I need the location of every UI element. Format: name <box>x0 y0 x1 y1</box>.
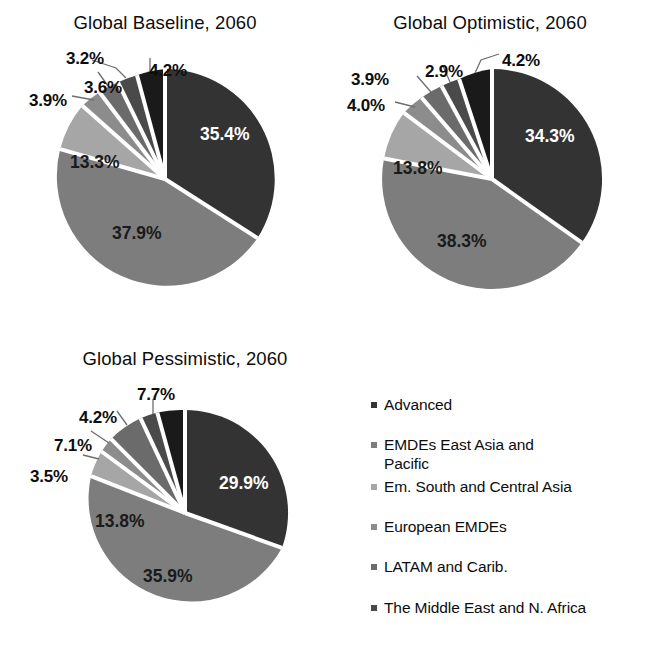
legend-label: European EMDEs <box>384 518 507 536</box>
pie-inside-label-south-central: 13.8% <box>393 158 443 178</box>
chart-title-baseline: Global Baseline, 2060 <box>0 12 330 34</box>
pie-inside-label-emdes: 37.9% <box>112 223 162 243</box>
pie-inside-label-south-central: 13.3% <box>70 152 120 172</box>
pie-baseline-svg: 35.4% 37.9% 13.3% <box>50 64 280 294</box>
pie-inside-label-emdes: 35.9% <box>143 566 193 586</box>
pie-outside-label-latam: 7.1% <box>54 436 92 456</box>
pie-outside-label-latam: 3.6% <box>84 78 122 98</box>
pie-pessimistic: 29.9% 35.9% 13.8% <box>77 405 293 621</box>
pie-outside-label-other: 7.7% <box>137 385 175 405</box>
pie-inside-label-emdes: 38.3% <box>437 231 487 251</box>
legend-swatch-icon <box>371 524 377 530</box>
legend-swatch-icon <box>371 402 377 408</box>
chart-panel-pessimistic: Global Pessimistic, 2060 <box>20 340 350 655</box>
legend-label: Advanced <box>384 396 452 414</box>
chart-panel-baseline: Global Baseline, 2060 <box>0 0 330 330</box>
legend-swatch-icon <box>371 564 377 570</box>
pie-outside-label-mena: 4.2% <box>79 408 117 428</box>
chart-panel-optimistic: Global Optimistic, 2060 <box>325 0 655 330</box>
pie-pessimistic-svg: 29.9% 35.9% 13.8% <box>77 405 293 621</box>
legend-item-em-south-central-asia[interactable]: Em. South and Central Asia <box>371 478 651 496</box>
legend-swatch-icon <box>371 605 377 611</box>
legend-label: Em. South and Central Asia <box>384 478 572 496</box>
legend-swatch-icon <box>371 484 377 490</box>
legend-label: LATAM and Carib. <box>384 558 508 576</box>
pie-outside-label-other: 4.2% <box>149 61 187 81</box>
pie-outside-label-other: 4.2% <box>502 51 540 71</box>
legend-item-advanced[interactable]: Advanced <box>371 396 651 414</box>
legend-item-latam-carib[interactable]: LATAM and Carib. <box>371 558 651 576</box>
legend-item-european-emdes[interactable]: European EMDEs <box>371 518 651 536</box>
legend-label: EMDEs East Asia and Pacific <box>384 436 534 473</box>
legend-label: The Middle East and N. Africa <box>384 599 586 617</box>
pie-outside-label-european-emdes: 3.9% <box>29 91 67 111</box>
pie-inside-label-south-central: 13.8% <box>95 511 145 531</box>
legend-item-emdes-east-asia-pacific[interactable]: EMDEs East Asia and Pacific <box>371 436 651 473</box>
pie-inside-label-advanced: 34.3% <box>525 126 575 146</box>
chart-title-optimistic: Global Optimistic, 2060 <box>325 12 655 34</box>
pie-outside-label-latam: 3.9% <box>351 70 389 90</box>
pie-optimistic-svg: 34.3% 38.3% 13.8% <box>377 64 607 294</box>
pie-outside-label-european-emdes: 3.5% <box>30 467 68 487</box>
pie-optimistic: 34.3% 38.3% 13.8% <box>377 64 607 294</box>
legend-swatch-icon <box>371 442 377 448</box>
legend-item-middle-east-n-africa[interactable]: The Middle East and N. Africa <box>371 599 651 617</box>
pie-outside-label-european-emdes: 4.0% <box>347 96 385 116</box>
pie-baseline: 35.4% 37.9% 13.3% <box>50 64 280 294</box>
pie-inside-label-advanced: 29.9% <box>219 473 269 493</box>
legend: Advanced EMDEs East Asia and Pacific Em.… <box>371 396 651 617</box>
figure-canvas: Global Baseline, 2060 <box>0 0 655 655</box>
pie-outside-label-mena: 2.9% <box>425 62 463 82</box>
pie-inside-label-advanced: 35.4% <box>200 124 250 144</box>
pie-outside-label-mena: 3.2% <box>66 49 104 69</box>
chart-title-pessimistic: Global Pessimistic, 2060 <box>20 348 350 370</box>
